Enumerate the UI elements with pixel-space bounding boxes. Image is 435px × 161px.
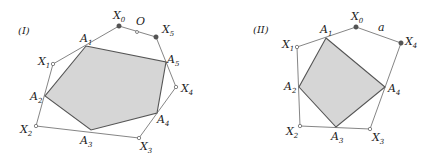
figure-ii-label-x1: X1 (281, 38, 294, 53)
figure-i-label-a5: A5 (166, 53, 180, 68)
figure-ii-point-x2 (298, 124, 301, 127)
figure-ii-inner-polygon (299, 38, 385, 127)
figure-i: (I) X0 O X5 A1 A5 X1 X4 A2 A4 X2 A3 X3 (18, 9, 193, 155)
figure-ii-title: (II) (253, 24, 269, 35)
diagram-canvas: (I) X0 O X5 A1 A5 X1 X4 A2 A4 X2 A3 X3 (… (0, 0, 435, 161)
figure-ii-point-x4 (399, 41, 403, 45)
figure-ii-label-x3: X3 (371, 131, 385, 146)
figure-i-point-x0 (117, 24, 121, 28)
figure-i-point-x1 (51, 62, 54, 65)
figure-ii-label-a1: A1 (319, 23, 332, 38)
figure-ii-label-a: a (378, 21, 385, 34)
figure-ii-label-a2: A2 (283, 80, 297, 95)
figure-i-point-x4 (174, 85, 177, 88)
figure-i-title: (I) (18, 25, 30, 36)
figure-i-label-x4: X4 (180, 82, 193, 97)
figure-i-label-x0: X0 (112, 9, 126, 24)
figure-i-point-x2 (34, 124, 37, 127)
figure-i-label-a1: A1 (79, 32, 92, 47)
figure-i-label-x5: X5 (161, 23, 175, 38)
figure-i-label-a2: A2 (29, 90, 43, 105)
figure-ii-label-a4: A4 (387, 82, 400, 97)
figure-i-label-o: O (136, 15, 145, 28)
figure-i-label-x2: X2 (19, 123, 33, 138)
figure-i-label-x3: X3 (139, 140, 153, 155)
figure-ii-label-x2: X2 (285, 125, 299, 140)
figure-ii-label-x0: X0 (350, 10, 364, 25)
figure-i-label-a3: A3 (79, 134, 93, 149)
figure-i-point-o (136, 31, 139, 34)
figure-ii-label-x4: X4 (404, 35, 417, 50)
figure-ii-label-a3: A3 (330, 130, 344, 145)
figure-i-point-x5 (154, 35, 158, 39)
figure-i-label-a4: A4 (156, 113, 169, 128)
figure-i-label-x1: X1 (37, 55, 50, 70)
figure-ii: (II) X0 a X4 A1 X1 A2 A4 X2 A3 X3 (253, 10, 417, 146)
figure-ii-point-x0 (354, 25, 358, 29)
figure-ii-point-x1 (295, 45, 298, 48)
